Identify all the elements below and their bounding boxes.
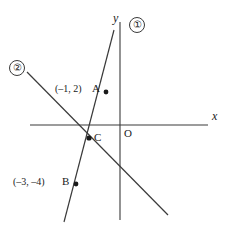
coordinate-geometry-figure: x y O ① ② (–1, 2) A (–3, –4) B C [0,0,233,237]
line-2-marker-label: ② [9,60,25,76]
figure-canvas [0,0,233,237]
line-1-marker-label: ① [129,17,145,33]
point-a-label: A [92,83,100,94]
point-c-marker [86,135,91,140]
point-b-marker [74,182,79,187]
origin-label: O [124,128,132,139]
point-a-coord-label: (–1, 2) [55,84,82,94]
x-axis-label: x [212,110,217,122]
line-1 [64,30,114,222]
point-b-label: B [62,176,69,187]
point-b-coord-label: (–3, –4) [13,177,45,187]
point-c-label: C [94,132,101,143]
y-axis-label: y [113,12,118,24]
point-a-marker [104,90,109,95]
